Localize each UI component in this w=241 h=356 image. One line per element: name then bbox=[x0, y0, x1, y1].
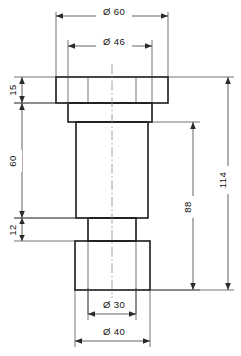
dim-label-d40: Ø 40 bbox=[103, 326, 125, 337]
dimension-height-60: 60 bbox=[7, 103, 90, 218]
dim-label-h12: 12 bbox=[7, 224, 18, 235]
dim-label-d46: Ø 46 bbox=[103, 36, 125, 47]
arrowhead-h60-top bbox=[19, 103, 25, 110]
arrowhead-h88-top bbox=[190, 122, 196, 129]
dimension-height-15: 15 bbox=[7, 77, 70, 103]
arrowhead-h114-top bbox=[225, 77, 231, 84]
arrowhead-h15-bottom bbox=[19, 96, 25, 103]
upper-step-outline bbox=[68, 103, 152, 122]
arrowhead-h15-top bbox=[19, 77, 25, 84]
dimension-diameter-46: Ø 46 bbox=[68, 36, 152, 105]
arrowhead-d40-right bbox=[143, 338, 150, 344]
dimension-height-114: 114 bbox=[148, 77, 234, 290]
arrowhead-h12-bottom bbox=[19, 235, 25, 241]
arrowhead-h114-bottom bbox=[225, 283, 231, 290]
arrowhead-d30-left bbox=[88, 311, 95, 317]
dimension-height-88: 88 bbox=[146, 122, 200, 290]
dimension-diameter-40: Ø 40 bbox=[75, 288, 150, 347]
dim-label-h88: 88 bbox=[182, 201, 193, 212]
arrowhead-d60-left bbox=[56, 13, 63, 19]
arrowhead-h12-top bbox=[19, 218, 25, 224]
dim-label-h114: 114 bbox=[217, 172, 228, 188]
arrowhead-d30-right bbox=[129, 311, 136, 317]
arrowhead-d46-left bbox=[68, 43, 75, 49]
dim-label-h60: 60 bbox=[7, 155, 18, 166]
arrowhead-h88-bottom bbox=[190, 283, 196, 290]
dimension-height-12: 12 bbox=[7, 218, 90, 241]
dim-label-h15: 15 bbox=[7, 84, 18, 95]
dim-label-d30: Ø 30 bbox=[103, 299, 125, 310]
arrowhead-d46-right bbox=[145, 43, 152, 49]
bottom-boss-outline bbox=[75, 241, 150, 290]
technical-drawing-canvas: Ø 60 Ø 46 15 60 12 bbox=[0, 0, 241, 356]
arrowhead-d60-right bbox=[161, 13, 168, 19]
arrowhead-d40-left bbox=[75, 338, 82, 344]
dim-label-d60: Ø 60 bbox=[103, 6, 125, 17]
arrowhead-h60-bottom bbox=[19, 211, 25, 218]
projection-lines-group bbox=[88, 77, 136, 314]
